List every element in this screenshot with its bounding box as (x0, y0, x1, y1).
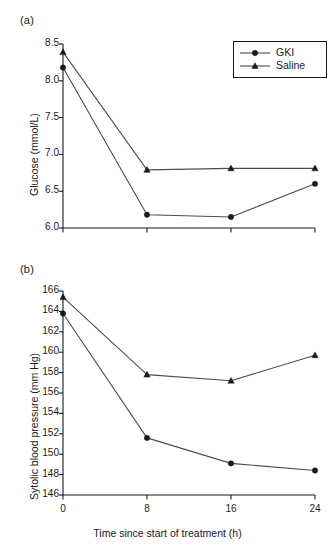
y-tick-label: 7.5 (0, 111, 59, 122)
y-tick-label: 7.0 (0, 147, 59, 158)
legend-box: GKISaline (233, 41, 327, 78)
y-tick-label: 156 (0, 386, 59, 397)
panel-b: (b) Sytolic blood pressure (mm Hg) 14614… (0, 255, 335, 554)
y-tick-label: 148 (0, 468, 59, 479)
y-tick-label: 158 (0, 366, 59, 377)
legend-markers (234, 42, 326, 77)
y-tick-label: 6.5 (0, 184, 59, 195)
panel-a-label: (a) (20, 14, 34, 26)
panel-b-label: (b) (20, 263, 34, 275)
y-tick-label: 160 (0, 345, 59, 356)
y-tick-label: 152 (0, 427, 59, 438)
y-tick-label: 166 (0, 284, 59, 295)
panel-a: (a) Glucose (mmol/L) 6.06.57.07.58.08.5 … (0, 0, 335, 255)
y-tick-label: 150 (0, 447, 59, 458)
y-tick-label: 154 (0, 406, 59, 417)
figure-container: (a) Glucose (mmol/L) 6.06.57.07.58.08.5 … (0, 0, 335, 554)
y-tick-label: 162 (0, 325, 59, 336)
y-tick-label: 8.5 (0, 37, 59, 48)
y-tick-label: 164 (0, 304, 59, 315)
x-axis-title: Time since start of treatment (h) (0, 527, 335, 539)
y-tick-label: 6.0 (0, 221, 59, 232)
y-tick-label: 146 (0, 488, 59, 499)
y-tick-label: 8.0 (0, 74, 59, 85)
panel-b-plot (63, 291, 335, 515)
